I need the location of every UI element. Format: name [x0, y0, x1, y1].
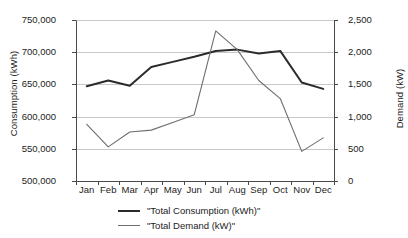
legend-item[interactable]: "Total Demand (kW)" [118, 218, 338, 233]
legend-line-swatch [118, 225, 140, 226]
data-series-lines [87, 31, 324, 151]
series-line-0 [87, 50, 324, 89]
legend-line-swatch [118, 210, 140, 212]
x-axis-tick-labels: JanFebMarAprMayJunJulAugSepOctNovDec [76, 185, 334, 199]
tick-marks [72, 21, 338, 186]
chart-container: Consumption (kWh) Demand (kW) 500,000550… [0, 0, 408, 238]
legend-item[interactable]: "Total Consumption (kWh)" [118, 203, 338, 218]
series-line-1 [87, 31, 324, 151]
x-tick-label-dec: Dec [308, 185, 338, 195]
gridlines [76, 21, 334, 182]
chart-legend: "Total Consumption (kWh)""Total Demand (… [118, 203, 338, 233]
legend-label: "Total Demand (kW)" [147, 220, 235, 231]
axis-lines [77, 21, 335, 182]
legend-label: "Total Consumption (kWh)" [147, 205, 260, 216]
